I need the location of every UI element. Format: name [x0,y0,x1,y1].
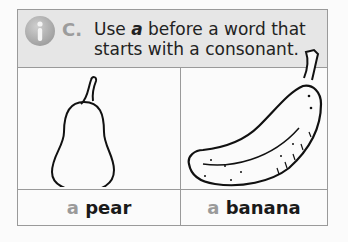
word-pear: pear [85,197,131,218]
grammar-rule-card: C. Use a before a word that starts with … [17,9,328,226]
rule-header: C. Use a before a word that starts with … [18,10,327,68]
banana-stem [300,48,330,84]
caption-row: a pear a banana [18,189,327,225]
caption-banana: a banana [181,190,327,225]
pear-cell [18,68,181,189]
rule-article: a [131,19,142,39]
section-letter: C. [62,19,82,40]
pear-illustration [18,68,179,187]
word-banana: banana [226,197,301,218]
article-a: a [207,197,219,218]
caption-pear: a pear [18,190,181,225]
rule-prefix: Use [94,19,131,39]
rule-text: Use a before a word that starts with a c… [94,19,324,59]
banana-cell [181,68,327,189]
info-icon [25,16,55,46]
banana-illustration [181,68,327,187]
article-a: a [67,197,79,218]
